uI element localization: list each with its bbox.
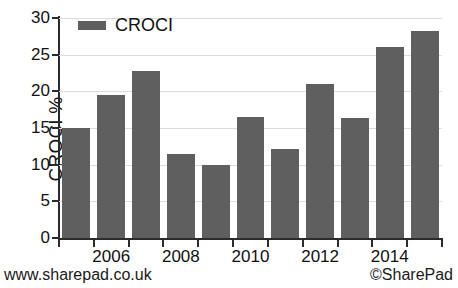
- x-tick-mark: [371, 240, 373, 247]
- x-tick-mark: [197, 240, 199, 247]
- x-tick-mark: [302, 240, 304, 247]
- y-tick-mark: [52, 54, 58, 56]
- bar: [271, 149, 299, 238]
- x-tick-mark: [128, 240, 130, 247]
- y-tick-label: 15: [0, 119, 50, 136]
- y-tick-mark: [52, 164, 58, 166]
- x-tick-label: 2010: [216, 248, 286, 265]
- x-axis-line: [58, 238, 443, 240]
- chart-legend: CROCI: [78, 16, 173, 34]
- bar: [202, 165, 230, 238]
- bar: [132, 71, 160, 238]
- y-tick-mark: [52, 127, 58, 129]
- x-tick-label: 2012: [285, 248, 355, 265]
- x-tick-mark: [267, 240, 269, 247]
- footer-copyright: ©SharePad: [370, 266, 453, 284]
- y-tick-label: 10: [0, 156, 50, 173]
- x-tick-mark: [337, 240, 339, 247]
- legend-swatch-croci: [78, 21, 106, 30]
- legend-label-croci: CROCI: [115, 16, 173, 34]
- footer-website: www.sharepad.co.uk: [4, 266, 152, 284]
- y-tick-mark: [52, 237, 58, 239]
- x-tick-label: 2014: [355, 248, 425, 265]
- y-tick-mark: [52, 200, 58, 202]
- y-tick-label: 20: [0, 82, 50, 99]
- y-tick-label: 0: [0, 229, 50, 246]
- croci-bar-chart: CROCI % 051015202530 2006200820102012201…: [0, 0, 458, 288]
- y-tick-label: 25: [0, 46, 50, 63]
- x-tick-mark: [93, 240, 95, 247]
- bar: [97, 95, 125, 238]
- bar: [411, 31, 439, 238]
- bar: [62, 128, 90, 238]
- x-tick-label: 2008: [146, 248, 216, 265]
- bar: [306, 84, 334, 238]
- y-tick-label: 5: [0, 192, 50, 209]
- y-tick-mark: [52, 17, 58, 19]
- plot-area: [59, 18, 442, 238]
- x-tick-mark: [232, 240, 234, 247]
- x-tick-label: 2006: [76, 248, 146, 265]
- bar: [341, 118, 369, 238]
- bar: [167, 154, 195, 238]
- y-tick-mark: [52, 90, 58, 92]
- x-tick-mark: [406, 240, 408, 247]
- x-tick-mark: [162, 240, 164, 247]
- bar: [237, 117, 265, 238]
- bar: [376, 47, 404, 238]
- x-tick-mark: [58, 240, 60, 247]
- y-tick-label: 30: [0, 9, 50, 26]
- x-tick-mark: [441, 240, 443, 247]
